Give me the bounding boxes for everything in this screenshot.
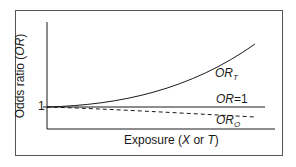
label-or-t: ORT	[215, 66, 238, 82]
y-axis-label: Odds ratio (OR)	[13, 34, 27, 119]
y-tick-label-1: 1	[38, 99, 45, 113]
label-or-equals-1: OR=1	[216, 92, 248, 106]
label-or-o: ORO	[216, 113, 240, 129]
x-axis-label: Exposure (X or T)	[124, 133, 219, 147]
